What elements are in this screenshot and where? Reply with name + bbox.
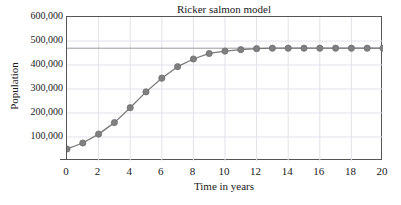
y-tick-label: 400,000: [3, 58, 63, 69]
data-point: [67, 146, 70, 152]
data-point: [380, 45, 383, 51]
y-tick-label: 300,000: [3, 82, 63, 93]
gridlines: [67, 17, 383, 161]
data-point: [80, 140, 86, 146]
y-tick-label: 600,000: [3, 10, 63, 21]
data-point: [254, 46, 260, 52]
data-point: [175, 64, 181, 70]
x-tick-label: 20: [370, 165, 394, 177]
data-point: [269, 45, 275, 51]
data-point: [127, 105, 133, 111]
chart-title: Ricker salmon model: [66, 3, 382, 15]
x-tick-label: 2: [86, 165, 110, 177]
data-point: [348, 45, 354, 51]
x-tick-label: 14: [275, 165, 299, 177]
chart-canvas: [67, 17, 383, 161]
x-tick-label: 4: [117, 165, 141, 177]
y-tick-label: 100,000: [3, 130, 63, 141]
data-point: [317, 45, 323, 51]
plot-area: [66, 16, 382, 160]
data-point: [333, 45, 339, 51]
data-point: [96, 131, 102, 137]
data-point: [111, 120, 117, 126]
data-point: [364, 45, 370, 51]
x-tick-label: 6: [149, 165, 173, 177]
x-tick-label: 18: [338, 165, 362, 177]
data-point: [143, 89, 149, 95]
x-tick-label: 10: [212, 165, 236, 177]
data-point: [206, 50, 212, 56]
x-axis-title: Time in years: [66, 180, 382, 192]
data-point: [301, 45, 307, 51]
data-point: [285, 45, 291, 51]
x-tick-label: 8: [180, 165, 204, 177]
x-tick-label: 16: [307, 165, 331, 177]
x-tick-label: 12: [244, 165, 268, 177]
data-point: [159, 75, 165, 81]
x-tick-label: 0: [54, 165, 78, 177]
chart-figure: Ricker salmon model Population 100,00020…: [0, 0, 401, 205]
data-point: [238, 47, 244, 53]
y-tick-label: 200,000: [3, 106, 63, 117]
y-tick-label: 500,000: [3, 34, 63, 45]
data-point: [190, 56, 196, 62]
y-axis-origin-tick: [60, 159, 66, 160]
data-point: [222, 48, 228, 54]
